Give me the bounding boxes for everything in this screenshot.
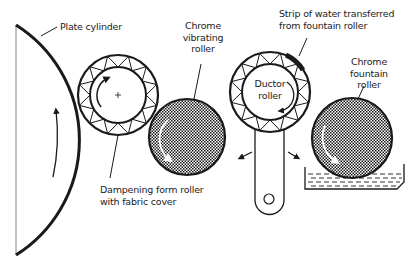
label-chrome-vibrating-roller: Chrome vibrating roller xyxy=(178,20,228,55)
label-line: roller xyxy=(178,43,228,55)
label-line: Chrome xyxy=(344,56,394,68)
chrome-fountain-roller xyxy=(312,86,392,178)
plate-rotation-arrow-icon xyxy=(53,110,57,177)
swing-left-arrow-icon xyxy=(240,152,252,158)
ductor-roller xyxy=(230,38,310,215)
label-line: Chrome xyxy=(178,20,228,32)
label-line: with fabric cover xyxy=(100,196,204,208)
pivot-hole-icon xyxy=(264,194,274,204)
label-ductor-roller: Ductor roller xyxy=(252,78,288,101)
label-chrome-fountain-roller: Chrome fountain roller xyxy=(344,56,394,91)
chrome-vibrating-roller xyxy=(149,64,225,175)
label-line: Strip of water transferred xyxy=(279,8,394,20)
label-dampening-form-roller: Dampening form roller with fabric cover xyxy=(100,184,204,207)
label-line: Ductor xyxy=(252,78,288,90)
label-line: roller xyxy=(252,90,288,102)
label-strip-of-water: Strip of water transferred from fountain… xyxy=(279,8,394,31)
plate-cylinder xyxy=(16,25,79,255)
label-line: from fountain roller xyxy=(279,20,394,32)
label-line: Dampening form roller xyxy=(100,184,204,196)
label-line: vibrating xyxy=(178,32,228,44)
label-plate-cylinder: Plate cylinder xyxy=(60,21,122,33)
dampening-system-diagram: Plate cylinder Chrome vibrating roller S… xyxy=(0,0,415,265)
label-line: fountain xyxy=(344,68,394,80)
swing-right-arrow-icon xyxy=(288,152,298,158)
dampening-form-roller xyxy=(78,55,158,178)
label-line: roller xyxy=(344,79,394,91)
